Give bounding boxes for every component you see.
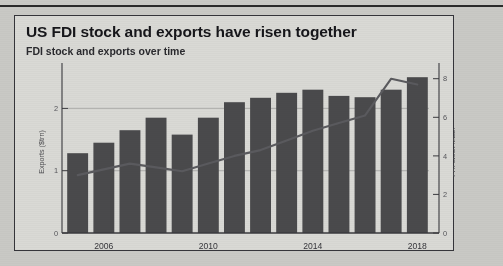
x-tick-label: 2006 [94, 241, 113, 251]
chart-plot-area: 012 02468 2006201020142018 Exports ($trn… [15, 16, 455, 252]
y2-tick-label: 8 [443, 74, 447, 83]
y-tick-label: 1 [54, 166, 58, 175]
bar [329, 96, 350, 233]
bar [198, 118, 219, 233]
x-tick-label: 2014 [303, 241, 322, 251]
bar [93, 143, 114, 233]
bar [224, 102, 245, 233]
y2-tick-label: 2 [443, 190, 447, 199]
y-axis-ticks: 012 [54, 104, 68, 238]
x-tick-label: 2018 [408, 241, 427, 251]
y2-tick-label: 0 [443, 229, 447, 238]
x-axis-ticks: 2006201020142018 [94, 241, 427, 251]
bar [250, 98, 271, 233]
bar [120, 130, 141, 233]
x-tick-label: 2010 [199, 241, 218, 251]
y2-axis-ticks: 02468 [433, 74, 447, 237]
bar [146, 118, 167, 233]
bar-series [67, 77, 428, 233]
bar [381, 90, 402, 233]
chart-svg: 012 02468 2006201020142018 Exports ($trn… [15, 16, 455, 252]
page-top-rule [0, 5, 503, 7]
y-axis-title: Exports ($trn) [37, 130, 46, 174]
bar [172, 135, 193, 233]
y-tick-label: 2 [54, 104, 58, 113]
bar [276, 93, 297, 233]
page-root: US FDI stock and exports have risen toge… [0, 0, 503, 266]
y2-axis-title: FDI stock ($trn) [451, 127, 455, 177]
bar [67, 153, 88, 233]
chart-card: US FDI stock and exports have risen toge… [14, 15, 454, 251]
bar [302, 90, 323, 233]
bar [407, 77, 428, 233]
y2-tick-label: 4 [443, 152, 447, 161]
y2-tick-label: 6 [443, 113, 447, 122]
y-tick-label: 0 [54, 229, 58, 238]
